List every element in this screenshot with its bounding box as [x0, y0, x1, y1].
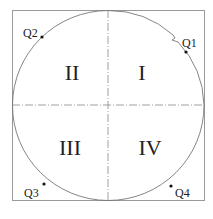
quadrant-label-i: I	[138, 60, 145, 85]
label-q2: Q2	[23, 26, 38, 40]
quadrant-label-ii: II	[65, 60, 80, 85]
frame	[13, 11, 205, 201]
quadrant-diagram: Q1 Q2 Q3 Q4 I II III IV	[0, 0, 213, 219]
label-q4: Q4	[175, 186, 190, 200]
label-q3: Q3	[24, 186, 39, 200]
quadrant-label-iv: IV	[138, 135, 161, 160]
point-q1	[184, 50, 187, 53]
point-q2	[40, 35, 43, 38]
point-q3	[42, 182, 45, 185]
point-q4	[169, 184, 172, 187]
label-q1: Q1	[182, 36, 197, 50]
quadrant-label-iii: III	[59, 135, 81, 160]
